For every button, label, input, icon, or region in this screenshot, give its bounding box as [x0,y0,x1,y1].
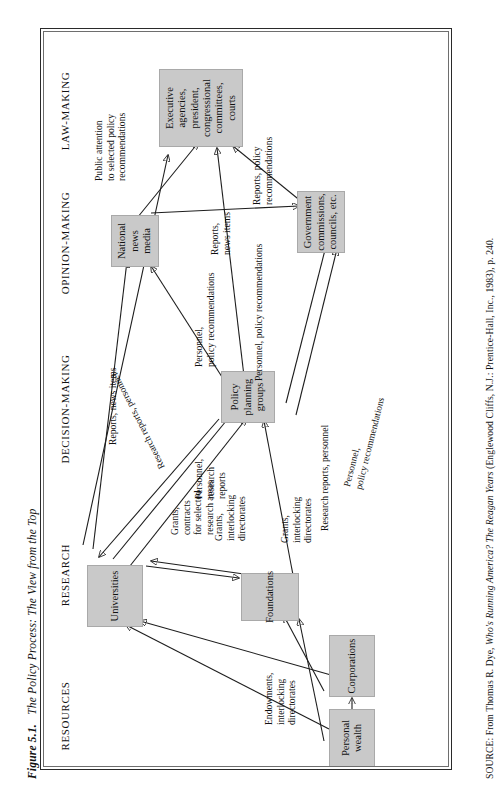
edge-label-personnel-policy-recommendations-exec: Personnel, policy recommendations [253,244,265,381]
stage-label-resources: RESOURCES [59,682,71,751]
source-suffix: (Englewood Cliffs, N.J.: Prentice-Hall, … [484,238,495,469]
node-personal-wealth[interactable]: Personal wealth [329,709,375,767]
figure-number: Figure 5.1. [26,724,38,779]
source-note: SOURCE: From Thomas R. Dye, Who's Runnin… [484,238,495,779]
edge-label-grants-interlocking-foundations: Grants, interlocking directorates [279,497,314,543]
edge-label-personnel-policy-recommendations-media: Personnel, policy recommendations [193,272,216,367]
node-policy-planning-groups[interactable]: Policy planning groups [221,371,275,423]
figure-caption: Figure 5.1. The Policy Process: The View… [26,509,38,780]
node-universities[interactable]: Universities [87,565,143,627]
edge-label-grants-interlocking-universities: Grants, interlocking directorates [213,495,248,541]
policy-process-diagram: RESOURCES RESEARCH DECISION-MAKING OPINI… [41,29,453,771]
edge-label-reports-policy-recommendations: Reports, policy recommendations [251,137,274,205]
edge-label-reports-news-items-gov: Reports, news items [209,212,232,255]
stage-label-decision-making: DECISION-MAKING [59,354,71,463]
edge-label-research-reports-personnel-foundations: Research reports, personnel [319,425,331,531]
source-work-title: Who's Running America? The Reagan Years [484,471,495,645]
edge-label-public-attention: Public attention to selected policy reco… [93,113,128,181]
figure-frame: RESOURCES RESEARCH DECISION-MAKING OPINI… [40,28,452,770]
node-foundations[interactable]: Foundations [241,573,299,621]
node-government-commissions[interactable]: Government commissions, councils, etc. [297,191,345,253]
source-label: SOURCE: [484,738,495,779]
node-executive-agencies[interactable]: Executive agencies, president, congressi… [159,69,243,147]
figure-title: The Policy Process: The View from the To… [26,509,38,715]
source-prefix: From Thomas R. Dye, [484,647,495,735]
edge-label-personnel-research-reports: Personnel, research reports [193,459,228,499]
edge-label-endowments: Endowments, interlocking directorates [263,673,298,726]
stage-label-research: RESEARCH [59,544,71,606]
node-national-news-media[interactable]: National news media [111,215,159,267]
stage-label-opinion-making: OPINION-MAKING [59,192,71,295]
stage-label-law-making: LAW-MAKING [59,72,71,150]
node-corporations[interactable]: Corporations [329,635,375,697]
